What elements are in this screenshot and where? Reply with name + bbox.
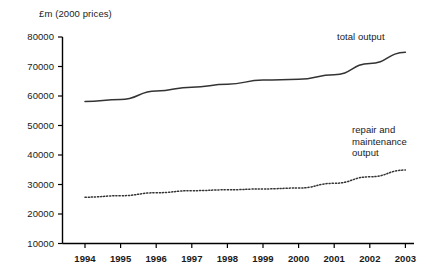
series-line-repair-and-maintenance-output [85,170,405,197]
x-axis-tick-label: 1996 [136,253,176,264]
annotation-total-output: total output [337,31,385,43]
x-axis-tick-label: 2002 [350,253,390,264]
y-axis-tick-label: 50000 [8,120,54,131]
annotation-repair-and-maintenance-output: repair and maintenance output [352,124,407,159]
x-axis-tick-label: 2003 [385,253,423,264]
y-axis-tick-label: 40000 [8,149,54,160]
y-axis-tick-label: 20000 [8,208,54,219]
x-axis-tick-label: 2000 [279,253,319,264]
y-axis-tick-label: 10000 [8,238,54,249]
line-chart: £m (2000 prices) 10000200003000040000500… [0,0,423,279]
x-axis-tick-label: 1994 [65,253,105,264]
x-axis-tick-label: 1998 [207,253,247,264]
y-axis-tick-label: 60000 [8,90,54,101]
x-axis-tick-label: 1995 [101,253,141,264]
x-axis-tick-label: 1999 [243,253,283,264]
y-axis-tick-label: 30000 [8,179,54,190]
x-axis-tick-label: 1997 [172,253,212,264]
y-axis-tick-label: 80000 [8,31,54,42]
x-axis-tick-label: 2001 [314,253,354,264]
y-axis-tick-label: 70000 [8,61,54,72]
series-line-total-output [85,52,405,101]
